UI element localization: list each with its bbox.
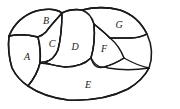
region-label-d: D <box>70 41 79 52</box>
region-partition-figure: A B C D E F G <box>0 0 180 109</box>
region-map-svg: A B C D E F G <box>0 0 180 109</box>
region-label-e: E <box>84 79 91 90</box>
region-label-b: B <box>43 15 49 26</box>
divider-g-e <box>124 58 149 68</box>
region-label-a: A <box>23 51 31 62</box>
region-label-c: C <box>49 38 56 49</box>
region-label-f: F <box>100 43 108 54</box>
region-label-g: G <box>115 19 122 30</box>
